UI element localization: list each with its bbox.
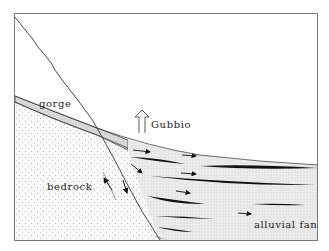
bedrock-label: bedrock [47, 181, 92, 192]
gorge-label: gorge [39, 98, 72, 109]
alluvial-fan-label: alluvial fan [254, 219, 317, 230]
gubbio-label: Gubbio [151, 119, 191, 130]
gubbio-marker-icon [135, 110, 149, 133]
